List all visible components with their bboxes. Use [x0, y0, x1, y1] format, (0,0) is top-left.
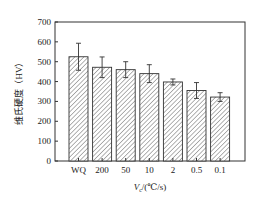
y-tick-label: 0: [47, 156, 52, 166]
bar-50: [116, 70, 135, 161]
x-tick-label: 200: [95, 165, 109, 175]
y-tick-label: 600: [38, 37, 52, 47]
bar-2: [163, 82, 182, 161]
x-tick-label: 2: [171, 165, 176, 175]
x-tick-label: 0.5: [191, 165, 203, 175]
y-axis-title: 维氏硬度（HV）: [13, 58, 24, 125]
y-tick-label: 100: [38, 136, 52, 146]
x-axis-title: Vc/(℃/s): [134, 182, 167, 193]
bar-200: [93, 67, 112, 161]
bar-0.1: [211, 97, 230, 161]
x-axis-title-units: /(℃/s): [142, 182, 167, 192]
x-tick-label: 50: [121, 165, 131, 175]
y-tick-label: 700: [38, 17, 52, 27]
bar-0.5: [187, 91, 206, 161]
y-tick-label: 400: [38, 77, 52, 87]
bar-WQ: [69, 57, 88, 161]
y-tick-label: 500: [38, 57, 52, 67]
x-tick-label: 0.1: [214, 165, 225, 175]
hardness-bar-chart: 0100200300400500600700 WQ200501020.50.1 …: [0, 0, 263, 202]
y-tick-label: 300: [38, 96, 52, 106]
bar-series: [69, 43, 230, 161]
y-tick-label: 200: [38, 116, 52, 126]
x-tick-label: 10: [145, 165, 155, 175]
x-tick-label: WQ: [71, 165, 86, 175]
bar-10: [140, 74, 159, 161]
